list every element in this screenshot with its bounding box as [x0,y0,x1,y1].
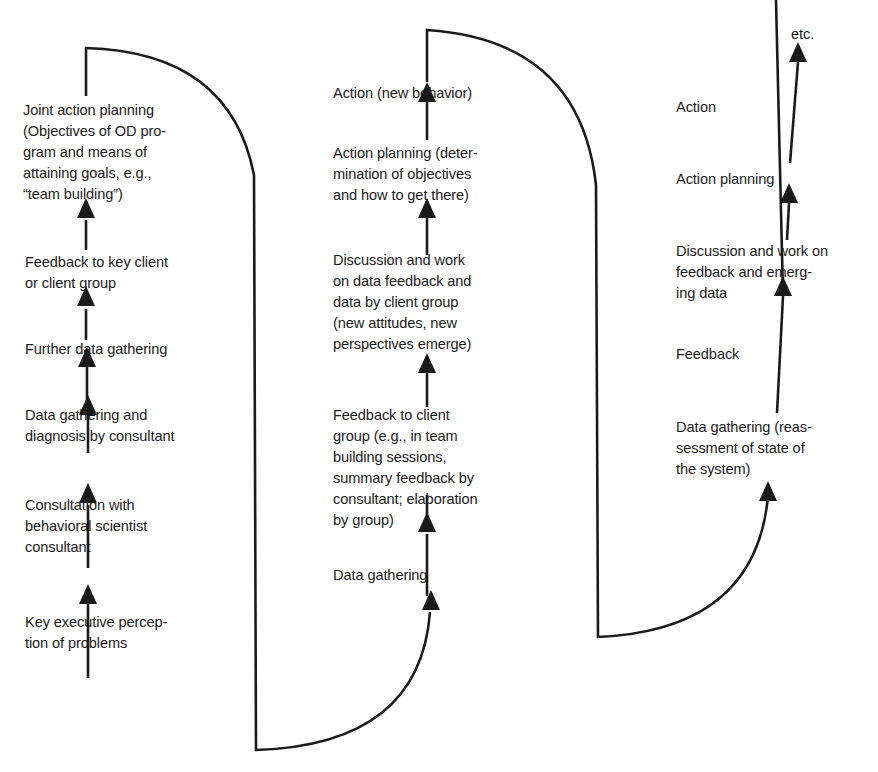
c3-step-1-label: Data gathering (reas- sessment of state … [676,417,812,480]
c1-step-2-label: Consultation with behavioral scientist c… [25,495,147,558]
c2-step-1-label: Data gathering [333,565,427,586]
c3-step-5-label: Action [676,97,716,118]
c2-step-4-label: Action planning (deter- mination of obje… [333,143,478,206]
arrow-up-icon [79,584,97,604]
c1-step-5-label: Feedback to key client or client group [25,252,168,294]
c2-step-3-label: Discussion and work on data feedback and… [333,250,471,355]
c2-step-2-label: Feedback to client group (e.g., in team … [333,405,478,531]
arrow-up-icon [422,590,440,610]
arrow-up-icon [759,481,777,501]
c3-step-2-label: Feedback [676,344,739,365]
c1-step-4-label: Further data gathering [25,339,167,360]
c1-step-3-label: Data gathering and diagnosis by consulta… [25,405,174,447]
cycle2-to-cycle3-connector [427,30,768,637]
c1-step-1-label: Key executive percep- tion of problems [25,612,167,654]
c2-step-5-label: Action (new behavior) [333,83,472,104]
arrow-up-icon [789,42,807,62]
c3-step-6-label: etc. [791,24,814,45]
c1-step-6-label: Joint action planning (Objectives of OD … [23,100,166,205]
arrow-up-icon [780,183,798,203]
arrow-up-icon [418,353,436,373]
c3-step-3-label: Discussion and work on feedback and emer… [676,241,828,304]
c3-step-4-label: Action planning [676,169,774,190]
action-research-diagram: Key executive percep- tion of problems C… [0,0,878,772]
